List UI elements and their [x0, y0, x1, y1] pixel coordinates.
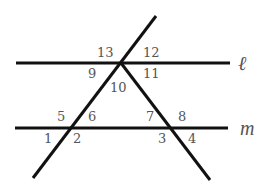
angle-3-label: 3 — [158, 131, 166, 146]
angle-12-label: 12 — [143, 45, 160, 60]
angle-9-label: 9 — [88, 66, 96, 81]
transversal-right — [121, 63, 210, 180]
angle-5-label: 5 — [57, 109, 65, 124]
transversal-left — [33, 16, 156, 178]
parallel-lines-transversals-diagram: ℓ m 13 12 9 11 10 5 6 1 2 7 8 3 4 — [0, 0, 274, 189]
angle-11-label: 11 — [143, 66, 160, 81]
line-m-label: m — [240, 117, 254, 139]
angle-8-label: 8 — [178, 109, 186, 124]
angle-1-label: 1 — [44, 131, 52, 146]
angle-2-label: 2 — [73, 131, 81, 146]
angle-6-label: 6 — [88, 109, 96, 124]
angle-13-label: 13 — [97, 45, 114, 60]
angle-7-label: 7 — [146, 109, 154, 124]
angle-10-label: 10 — [110, 80, 127, 95]
angle-4-label: 4 — [188, 131, 196, 146]
line-l-label: ℓ — [238, 52, 247, 74]
